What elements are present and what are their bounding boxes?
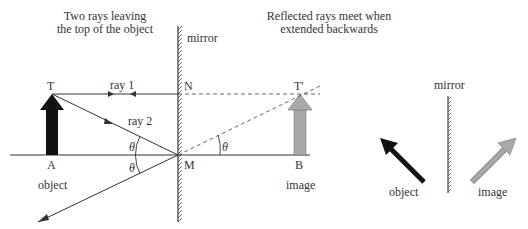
label-T-prime: T' <box>294 79 304 93</box>
label-N: N <box>184 79 193 93</box>
side-object-arrow <box>380 138 424 182</box>
mirror-label: mirror <box>187 31 218 45</box>
angle-arc-right <box>218 135 220 155</box>
ray-2-arrow <box>104 118 113 124</box>
caption-left-line2: the top of the object <box>57 22 154 36</box>
caption-left-line1: Two rays leaving <box>64 9 146 23</box>
label-B: B <box>295 158 303 172</box>
mirror-diagram: Two rays leaving the top of the object R… <box>0 0 528 229</box>
label-theta-upper: θ <box>129 140 135 154</box>
caption-right-line1: Reflected rays meet when <box>267 9 391 23</box>
main-mirror <box>178 26 182 222</box>
object-arrow <box>40 94 64 155</box>
side-mirror-label: mirror <box>434 78 465 92</box>
label-ray-1: ray 1 <box>110 78 134 92</box>
label-M: M <box>184 158 195 172</box>
caption-right-line2: extended backwards <box>280 22 378 36</box>
side-label-object: object <box>389 185 419 199</box>
label-ray-2: ray 2 <box>128 114 152 128</box>
label-theta-right: θ <box>222 140 228 154</box>
side-image-arrow <box>472 138 516 182</box>
label-A: A <box>47 158 56 172</box>
label-theta-lower: θ <box>129 161 135 175</box>
label-object: object <box>38 178 68 192</box>
image-arrow <box>288 94 312 155</box>
label-T: T <box>47 79 55 93</box>
label-image: image <box>286 178 315 192</box>
reflected-ray-arrow <box>38 214 49 222</box>
side-mirror <box>448 96 451 193</box>
ray-2 <box>52 94 178 155</box>
side-label-image: image <box>478 185 507 199</box>
